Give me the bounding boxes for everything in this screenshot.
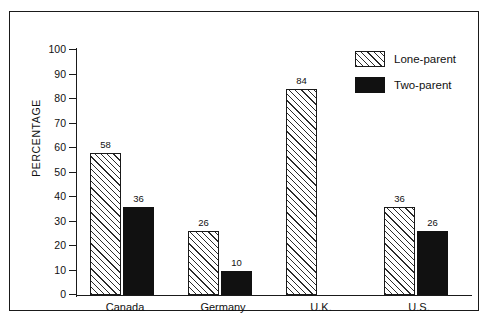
bar-value-label: 36 [384, 194, 415, 204]
bar-value-label: 26 [417, 218, 448, 228]
y-axis-tick-label: 80 [36, 93, 66, 104]
y-axis-tick-label: 100 [36, 44, 66, 55]
bar-value-label: 36 [123, 194, 154, 204]
y-axis-tick-label: 10 [36, 265, 66, 276]
y-axis-tick [69, 221, 76, 222]
bar-germany-two-parent [221, 271, 252, 296]
y-axis-tick-label: 90 [36, 69, 66, 80]
y-axis-tick [69, 147, 76, 148]
bar-value-label: 84 [286, 76, 317, 86]
chart-page: PERCENTAGE 1009080706050403020100 583626… [0, 0, 489, 322]
y-axis-tick-label: 70 [36, 118, 66, 129]
y-axis-tick-label: 60 [36, 142, 66, 153]
bar-value-label: 10 [221, 258, 252, 268]
y-axis-tick [69, 49, 76, 50]
y-axis-tick [69, 196, 76, 197]
bar-germany-lone-parent [188, 231, 219, 295]
y-axis-tick-label: 0 [36, 289, 66, 300]
y-axis-tick [69, 74, 76, 75]
legend-label-two-parent: Two-parent [394, 79, 452, 91]
legend-label-lone-parent: Lone-parent [394, 53, 456, 65]
y-axis-tick [69, 294, 76, 295]
bar-value-label: 26 [188, 218, 219, 228]
chart-frame-border: PERCENTAGE 1009080706050403020100 583626… [9, 11, 479, 311]
y-axis-tick-label: 20 [36, 240, 66, 251]
y-axis-tick [69, 98, 76, 99]
bar-canada-two-parent [123, 207, 154, 295]
y-axis-tick [69, 172, 76, 173]
x-axis-line [76, 295, 472, 296]
bar-us-lone-parent [384, 207, 415, 295]
y-axis-tick-label: 50 [36, 167, 66, 178]
bar-value-label: 58 [90, 140, 121, 150]
hatched-swatch-icon [355, 51, 385, 67]
solid-black-swatch-icon [355, 77, 385, 93]
category-label-germany: Germany [174, 301, 272, 313]
y-axis-tick [69, 245, 76, 246]
category-label-uk: U.K. [272, 301, 370, 313]
legend-item-two-parent: Two-parent [355, 74, 456, 96]
bar-us-two-parent [417, 231, 448, 295]
category-label-us: U.S. [370, 301, 468, 313]
chart-legend: Lone-parent Two-parent [355, 48, 456, 100]
bar-canada-lone-parent [90, 153, 121, 295]
y-axis-tick [69, 270, 76, 271]
y-axis-tick-label: 30 [36, 216, 66, 227]
legend-item-lone-parent: Lone-parent [355, 48, 456, 70]
category-label-canada: Canada [76, 301, 174, 313]
bar-uk-lone-parent [286, 89, 317, 295]
y-axis-tick-label: 40 [36, 191, 66, 202]
y-axis-tick [69, 123, 76, 124]
